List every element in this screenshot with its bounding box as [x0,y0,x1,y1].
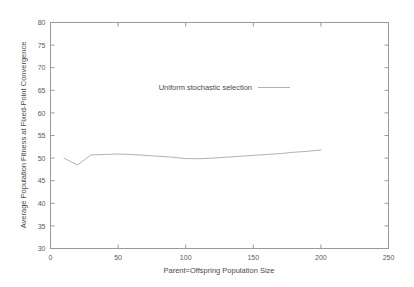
y-tick-label: 60 [38,110,46,117]
y-tick-label: 50 [38,155,46,162]
x-tick-label: 0 [49,254,53,261]
x-axis-title: Parent=Offspring Population Size [164,266,275,275]
chart-background [0,0,414,287]
y-tick-label: 70 [38,64,46,71]
y-tick-label: 55 [38,132,46,139]
y-tick-label: 75 [38,42,46,49]
y-tick-label: 40 [38,200,46,207]
x-tick-label: 250 [383,254,395,261]
y-tick-label: 35 [38,223,46,230]
x-tick-label: 150 [247,254,259,261]
line-chart: 3035404550556065707580 050100150200250 P… [0,0,414,287]
y-tick-label: 45 [38,177,46,184]
x-tick-label: 50 [114,254,122,261]
x-tick-label: 200 [315,254,327,261]
x-tick-label: 100 [180,254,192,261]
y-tick-label: 80 [38,19,46,26]
chart-canvas: 3035404550556065707580 050100150200250 P… [0,0,414,287]
y-axis-title: Average Population Fitness at Fixed-Poin… [19,42,28,229]
legend-label-uniform-stochastic-selection: Uniform stochastic selection [159,83,252,92]
y-tick-label: 65 [38,87,46,94]
y-tick-label: 30 [38,245,46,252]
